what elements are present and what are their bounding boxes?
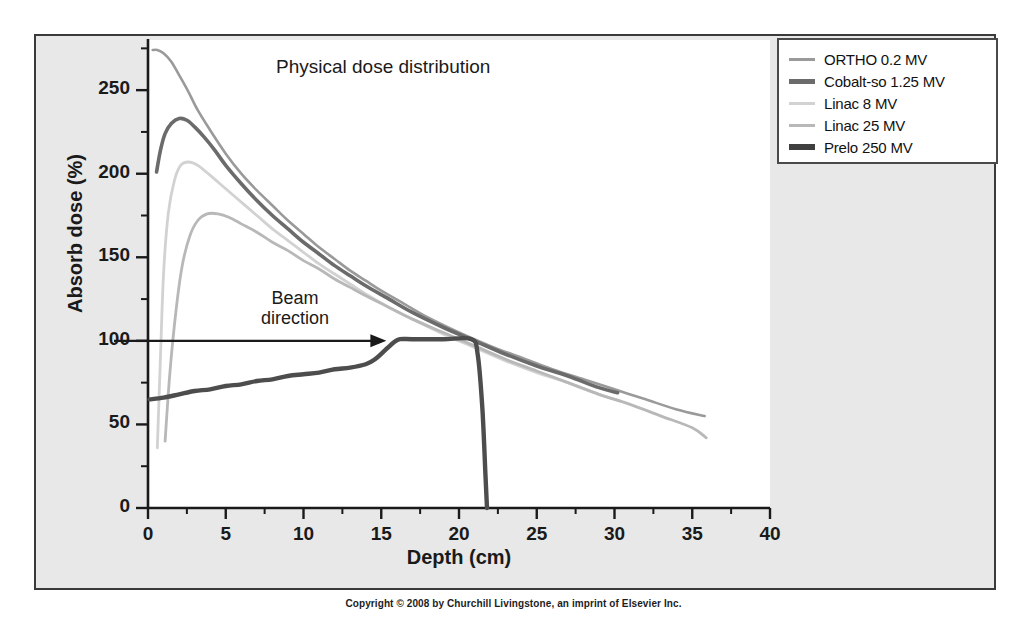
legend-item-label: Linac 25 MV <box>824 117 905 134</box>
legend-item-label: Prelo 250 MV <box>824 139 912 156</box>
series-curve-4 <box>150 338 487 508</box>
y-tick-label: 200 <box>82 161 130 183</box>
legend-item[interactable]: Linac 25 MV <box>789 114 996 136</box>
legend-item[interactable]: Cobalt-so 1.25 MV <box>789 70 996 92</box>
legend-item-label: Cobalt-so 1.25 MV <box>824 73 945 90</box>
chart-title: Physical dose distribution <box>276 56 490 78</box>
legend-item[interactable]: ORTHO 0.2 MV <box>789 48 996 70</box>
legend-item-label: Linac 8 MV <box>824 95 897 112</box>
series-curve-1 <box>157 118 618 392</box>
y-tick-label: 0 <box>82 495 130 517</box>
legend-item-label: ORTHO 0.2 MV <box>824 51 927 68</box>
y-tick-label: 150 <box>82 244 130 266</box>
beam-annotation-line-1: Beam <box>220 288 370 308</box>
legend: ORTHO 0.2 MVCobalt-so 1.25 MVLinac 8 MVL… <box>777 38 998 164</box>
series-curve-0 <box>153 50 705 416</box>
x-tick-label: 35 <box>672 523 712 545</box>
y-tick-label: 250 <box>82 77 130 99</box>
x-tick-label: 0 <box>128 523 168 545</box>
copyright-notice: Copyright © 2008 by Churchill Livingston… <box>0 598 1027 609</box>
legend-item[interactable]: Prelo 250 MV <box>789 136 996 158</box>
x-tick-label: 30 <box>595 523 635 545</box>
legend-swatch-line-icon <box>789 124 815 127</box>
x-axis-title: Depth (cm) <box>148 546 770 569</box>
x-tick-label: 15 <box>361 523 401 545</box>
legend-item[interactable]: Linac 8 MV <box>789 92 996 114</box>
legend-swatch-line-icon <box>789 144 815 150</box>
x-tick-label: 10 <box>284 523 324 545</box>
series-group <box>150 50 707 508</box>
y-tick-label: 100 <box>82 328 130 350</box>
y-tick-label: 50 <box>82 411 130 433</box>
beam-direction-annotation: Beam direction <box>220 288 370 328</box>
x-tick-label: 25 <box>517 523 557 545</box>
x-tick-label: 40 <box>750 523 790 545</box>
annotation-group <box>114 334 386 347</box>
beam-annotation-line-2: direction <box>220 308 370 328</box>
figure-root: Physical dose distribution Beam directio… <box>0 0 1027 637</box>
x-tick-label: 5 <box>206 523 246 545</box>
slide-frame: Physical dose distribution Beam directio… <box>34 34 996 590</box>
legend-swatch-line-icon <box>789 58 815 61</box>
beam-arrow-head <box>370 334 386 347</box>
legend-swatch-line-icon <box>789 102 815 105</box>
axes-group <box>136 39 770 519</box>
legend-swatch-line-icon <box>789 79 815 84</box>
x-tick-label: 20 <box>439 523 479 545</box>
